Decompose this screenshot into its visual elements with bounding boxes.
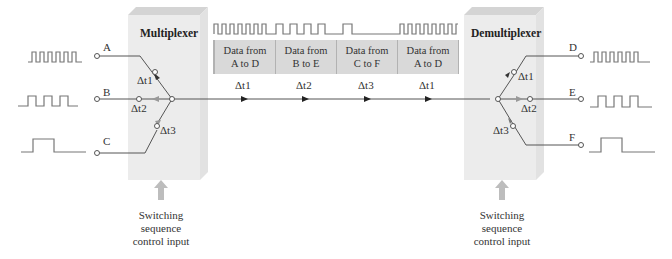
slot-b-to-e: Data from B to E bbox=[276, 40, 336, 74]
caption-line: sequence bbox=[457, 222, 547, 235]
slot-a-to-d: Data from A to D bbox=[215, 40, 275, 74]
demux-dt2-label: Δt2 bbox=[521, 102, 537, 114]
slot-line2: B to E bbox=[276, 57, 336, 70]
mux-dt3-label: Δt3 bbox=[160, 124, 176, 136]
mux-control-caption: Switching sequence control input bbox=[116, 209, 206, 248]
channel-dt-label-4: Δt1 bbox=[419, 79, 435, 91]
channel-dt-label-1: Δt1 bbox=[235, 79, 251, 91]
signal-d-icon bbox=[590, 52, 650, 62]
slot-c-to-f: Data from C to F bbox=[337, 40, 397, 74]
demux-control-arrow-icon bbox=[495, 180, 509, 200]
output-label-f: F bbox=[569, 131, 575, 143]
channel-signal-icon bbox=[214, 24, 458, 34]
input-label-c: C bbox=[103, 135, 110, 147]
slot-line1: Data from bbox=[337, 44, 397, 57]
caption-line: control input bbox=[116, 235, 206, 248]
caption-line: Switching bbox=[116, 209, 206, 222]
signal-b-icon bbox=[18, 96, 78, 106]
signal-f-icon bbox=[589, 138, 655, 152]
input-label-b: B bbox=[103, 86, 110, 98]
mux-dt2-label: Δt2 bbox=[131, 102, 147, 114]
input-label-a: A bbox=[103, 41, 111, 53]
diagram-graphics bbox=[0, 0, 672, 259]
output-label-e: E bbox=[569, 86, 576, 98]
output-label-d: D bbox=[569, 41, 577, 53]
demux-dt3-label: Δt3 bbox=[493, 124, 509, 136]
channel-dt-label-3: Δt3 bbox=[358, 79, 374, 91]
slot-line1: Data from bbox=[398, 44, 458, 57]
slot-line2: A to D bbox=[215, 57, 275, 70]
demux-dt1-label: Δt1 bbox=[518, 70, 534, 82]
multiplexer-title: Multiplexer bbox=[140, 27, 198, 39]
caption-line: Switching bbox=[457, 209, 547, 222]
slot-line1: Data from bbox=[215, 44, 275, 57]
caption-line: sequence bbox=[116, 222, 206, 235]
demux-control-caption: Switching sequence control input bbox=[457, 209, 547, 248]
mux-dt1-label: Δt1 bbox=[137, 74, 153, 86]
demultiplexer-title: Demultiplexer bbox=[471, 27, 541, 39]
tdm-diagram: Multiplexer Demultiplexer A B C D E F Δt… bbox=[0, 0, 672, 259]
signal-c-icon bbox=[21, 139, 86, 152]
signal-a-icon bbox=[28, 52, 82, 62]
signal-e-icon bbox=[590, 96, 652, 107]
slot-line2: A to D bbox=[398, 57, 458, 70]
slot-a-to-d-repeat: Data from A to D bbox=[398, 40, 458, 74]
slot-line2: C to F bbox=[337, 57, 397, 70]
caption-line: control input bbox=[457, 235, 547, 248]
slot-line1: Data from bbox=[276, 44, 336, 57]
channel-dt-label-2: Δt2 bbox=[296, 79, 312, 91]
mux-control-arrow-icon bbox=[154, 180, 168, 200]
